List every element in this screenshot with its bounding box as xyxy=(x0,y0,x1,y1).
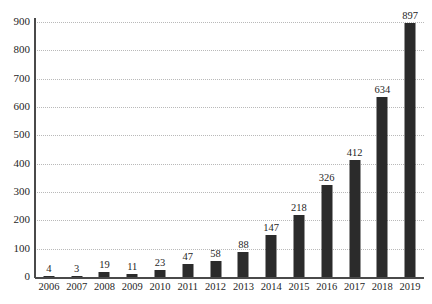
y-axis-tick-label: 700 xyxy=(0,73,30,84)
y-axis-tick-label: 800 xyxy=(0,44,30,55)
bar-value-label: 897 xyxy=(402,10,418,21)
bar-value-label: 634 xyxy=(374,84,390,95)
x-axis-tick-label: 2018 xyxy=(372,281,393,293)
bar xyxy=(127,274,138,277)
bar-group: 147 xyxy=(257,22,285,277)
bars-layer: 43191123475888147218326412634897 xyxy=(35,22,424,277)
bar-value-label: 4 xyxy=(46,263,51,274)
bar-group: 634 xyxy=(368,22,396,277)
x-axis-tick-label: 2014 xyxy=(261,281,282,293)
bar-group: 58 xyxy=(202,22,230,277)
x-axis-tick-label: 2013 xyxy=(233,281,254,293)
bar-group: 218 xyxy=(285,22,313,277)
bar xyxy=(155,270,166,277)
bar-group: 47 xyxy=(174,22,202,277)
x-axis-tick-label: 2009 xyxy=(122,281,143,293)
bar xyxy=(349,160,360,277)
bar-group: 19 xyxy=(91,22,119,277)
y-axis-tick-label: 900 xyxy=(0,16,30,27)
x-axis-tick-label: 2016 xyxy=(316,281,337,293)
y-axis-tick-label: 500 xyxy=(0,129,30,140)
y-axis-tick-label: 300 xyxy=(0,186,30,197)
x-axis-tick-label: 2019 xyxy=(400,281,421,293)
bar-chart: 0100200300400500600700800900 43191123475… xyxy=(0,0,432,304)
bar xyxy=(71,276,82,278)
x-axis-tick-label: 2010 xyxy=(150,281,171,293)
bar-value-label: 326 xyxy=(319,172,335,183)
x-axis-tick-label: 2017 xyxy=(344,281,365,293)
bar-group: 23 xyxy=(146,22,174,277)
y-axis-tick-label: 0 xyxy=(0,271,30,282)
bar-value-label: 147 xyxy=(263,222,279,233)
y-axis-tick-label: 100 xyxy=(0,243,30,254)
bar-value-label: 23 xyxy=(155,257,166,268)
bar-value-label: 11 xyxy=(127,261,137,272)
bar xyxy=(182,264,193,277)
x-axis-tick-label: 2015 xyxy=(288,281,309,293)
x-axis-tick-label: 2011 xyxy=(178,281,199,293)
bar-value-label: 3 xyxy=(74,263,79,274)
bar-group: 897 xyxy=(396,22,424,277)
bar-value-label: 412 xyxy=(347,147,363,158)
bar xyxy=(321,185,332,277)
bar-group: 412 xyxy=(341,22,369,277)
y-axis-tick-label: 200 xyxy=(0,214,30,225)
x-axis-tick-label: 2006 xyxy=(38,281,59,293)
bar xyxy=(238,252,249,277)
bar xyxy=(99,272,110,277)
bar xyxy=(293,215,304,277)
x-axis-tick-label: 2012 xyxy=(205,281,226,293)
bar-value-label: 47 xyxy=(183,251,194,262)
y-axis-tick-label: 400 xyxy=(0,158,30,169)
bar-value-label: 88 xyxy=(238,239,249,250)
bar xyxy=(43,276,54,278)
bar xyxy=(405,23,416,277)
x-axis-tick-labels: 2006200720082009201020112012201320142015… xyxy=(35,281,424,301)
bar-group: 88 xyxy=(230,22,258,277)
bar xyxy=(377,97,388,277)
x-axis-line xyxy=(35,277,424,279)
bar-group: 11 xyxy=(118,22,146,277)
bar-value-label: 58 xyxy=(210,248,221,259)
bar-group: 4 xyxy=(35,22,63,277)
bar xyxy=(266,235,277,277)
x-axis-tick-label: 2007 xyxy=(66,281,87,293)
bar-group: 326 xyxy=(313,22,341,277)
bar-group: 3 xyxy=(63,22,91,277)
bar xyxy=(210,261,221,277)
bar-value-label: 218 xyxy=(291,202,307,213)
x-axis-tick-label: 2008 xyxy=(94,281,115,293)
bar-value-label: 19 xyxy=(99,259,110,270)
y-axis-tick-label: 600 xyxy=(0,101,30,112)
